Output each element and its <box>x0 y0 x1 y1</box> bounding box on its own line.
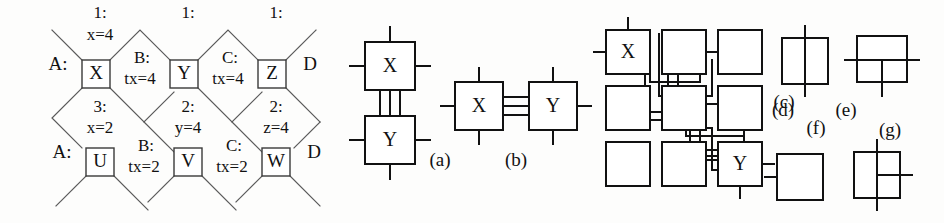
diagram-f-caption: (f) <box>807 117 826 139</box>
diagram-f-shape[interactable] <box>765 154 823 200</box>
figure-canvas: X Y Z U V W 1: x=4 1: <box>0 0 944 223</box>
diagram-e-shape[interactable] <box>845 36 919 96</box>
diagram-g-caption: (g) <box>879 119 901 141</box>
diagram-group-defg: (d) (e) (f) (g) <box>0 0 944 223</box>
diagram-d-shape[interactable] <box>782 26 828 96</box>
diagram-d-caption: (d) <box>772 99 794 121</box>
diagram-e-caption: (e) <box>835 99 856 121</box>
diagram-g-shape[interactable] <box>854 140 912 210</box>
